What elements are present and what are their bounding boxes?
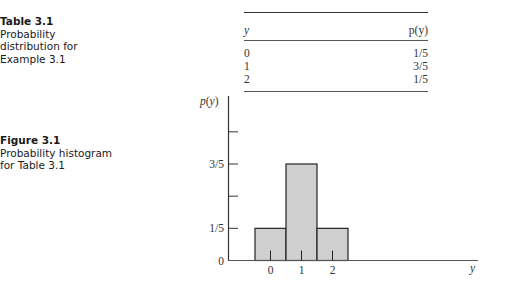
y-tick-label: 3/5 bbox=[209, 158, 224, 170]
histogram-bars bbox=[255, 164, 348, 261]
x-tick-label: 1 bbox=[299, 264, 305, 276]
x-tick-label: 0 bbox=[268, 264, 274, 276]
y-axis-ticks: 01/53/5 bbox=[209, 132, 238, 267]
y-axis-label: p(y) bbox=[199, 95, 219, 108]
y-tick-label: 0 bbox=[218, 255, 224, 267]
x-tick-label: 2 bbox=[330, 264, 336, 276]
probability-histogram: 01/53/5 012 p(y) y bbox=[0, 0, 515, 294]
y-tick-label: 1/5 bbox=[209, 222, 224, 234]
x-axis-label: y bbox=[469, 262, 476, 275]
histogram-bar bbox=[286, 164, 317, 261]
